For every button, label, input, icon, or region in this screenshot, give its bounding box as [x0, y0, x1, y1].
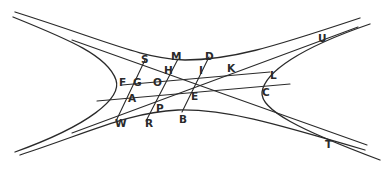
label-S: S — [141, 53, 149, 65]
label-C: C — [262, 86, 270, 98]
label-D: D — [205, 50, 214, 62]
label-W: W — [115, 117, 127, 129]
label-U: U — [318, 32, 327, 44]
label-K: K — [227, 62, 236, 74]
label-L: L — [270, 69, 277, 81]
label-A: A — [128, 92, 137, 104]
right-hyperbola-branch — [262, 24, 380, 160]
upper-hyperbola-branch — [15, 12, 360, 60]
label-O: O — [153, 76, 162, 88]
label-R: R — [145, 117, 153, 129]
label-B: B — [179, 113, 187, 125]
label-P: P — [156, 102, 164, 114]
line-B-D — [182, 57, 209, 112]
label-G: G — [133, 76, 142, 88]
label-M: M — [171, 50, 181, 62]
label-F: F — [119, 76, 126, 88]
label-H: H — [164, 64, 173, 76]
hyperbola-diagram: S M D U H I K L F G O E C A P B W R T — [0, 0, 385, 170]
label-T: T — [325, 138, 333, 150]
left-hyperbola-branch — [13, 17, 117, 152]
label-I: I — [199, 64, 203, 76]
label-E: E — [191, 90, 198, 102]
asymptote-descending — [72, 40, 367, 145]
